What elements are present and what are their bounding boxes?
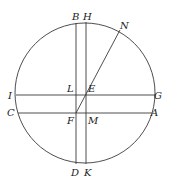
label-l: L [66,83,74,94]
point-labels: BHNILEGCFMADK [7,11,162,178]
geometric-diagram: BHNILEGCFMADK [0,0,171,187]
label-b: B [71,11,79,22]
line-fn [76,30,120,113]
label-c: C [7,107,15,118]
label-a: A [150,107,158,118]
label-g: G [154,90,162,101]
label-d: D [70,167,79,178]
label-n: N [119,20,130,31]
circle [15,23,155,163]
label-e: E [87,83,96,94]
label-i: I [7,90,13,101]
label-f: F [66,115,75,126]
label-h: H [82,11,92,22]
label-m: M [87,115,99,126]
label-k: K [83,167,92,178]
